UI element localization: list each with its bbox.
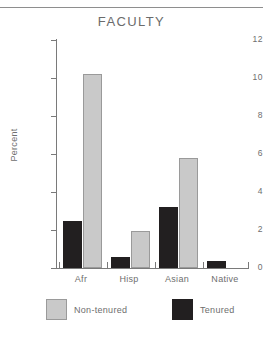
legend-swatch-non-tenured — [46, 299, 67, 320]
bar-non-tenured-afr — [83, 74, 102, 268]
legend-item-non-tenured: Non-tenured — [46, 299, 127, 320]
bar-non-tenured-asian — [179, 158, 198, 268]
faculty-bar-chart: FACULTY Percent 024681012 AfrHispAsianNa… — [0, 0, 263, 341]
bar-tenured-hisp — [111, 257, 130, 268]
bar-non-tenured-hisp — [131, 231, 150, 268]
legend-swatch-tenured — [172, 299, 193, 320]
bar-tenured-afr — [63, 221, 82, 269]
legend-label-tenured: Tenured — [200, 305, 235, 315]
x-axis-category-label: Hisp — [104, 274, 154, 284]
x-axis-category-label: Afr — [56, 274, 106, 284]
y-tick-mark — [51, 268, 57, 269]
x-axis-category-label: Native — [200, 274, 250, 284]
bar-tenured-asian — [159, 207, 178, 268]
x-axis-category-label: Asian — [152, 274, 202, 284]
chart-legend: Non-tenured Tenured — [0, 299, 263, 333]
legend-item-tenured: Tenured — [172, 299, 235, 320]
bar-tenured-native — [207, 261, 226, 268]
plot-area — [57, 40, 249, 268]
legend-label-non-tenured: Non-tenured — [74, 305, 127, 315]
